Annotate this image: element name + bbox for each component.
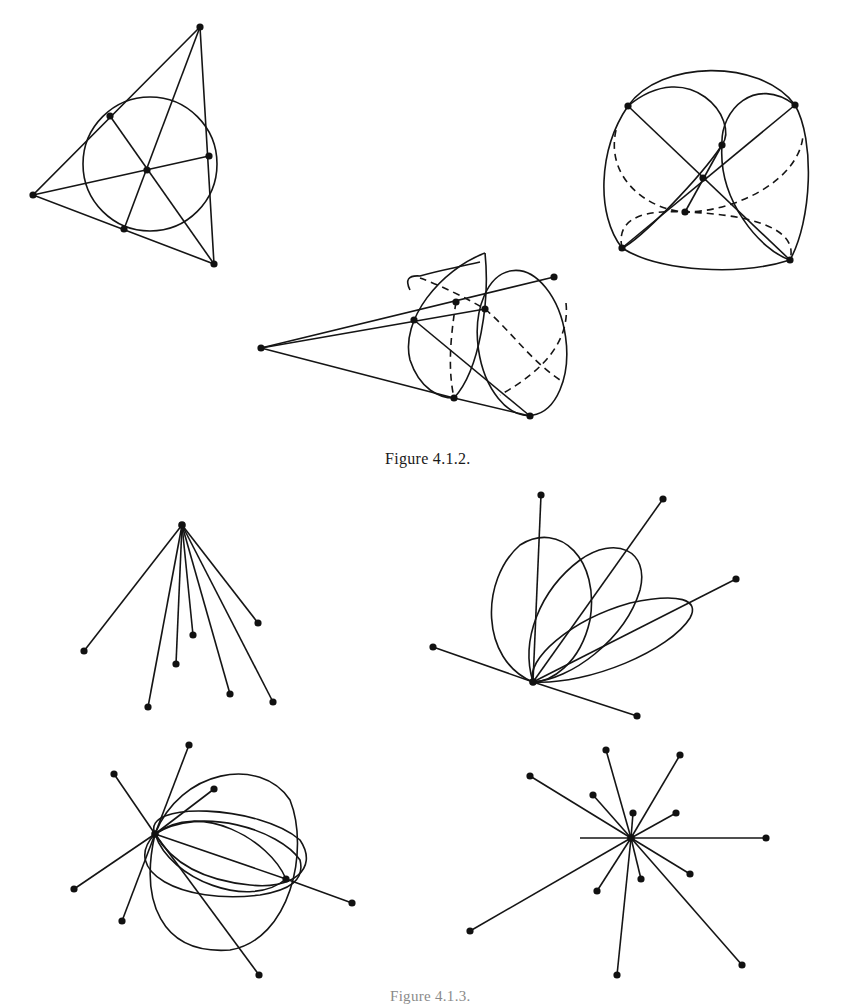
fan-star-diagram bbox=[80, 521, 276, 710]
figure-caption: Figure 4.1.2. bbox=[385, 450, 471, 468]
triangle-incircle-diagram bbox=[29, 23, 217, 267]
star-burst-diagram bbox=[466, 746, 769, 978]
sphere-arcs-diagram bbox=[604, 71, 808, 270]
pinched-ellipses-diagram bbox=[70, 741, 355, 978]
cone-ellipses-diagram bbox=[257, 253, 575, 421]
petal-ellipses-diagram bbox=[429, 491, 739, 719]
figure-caption-partial: Figure 4.1.3. bbox=[390, 988, 471, 1005]
